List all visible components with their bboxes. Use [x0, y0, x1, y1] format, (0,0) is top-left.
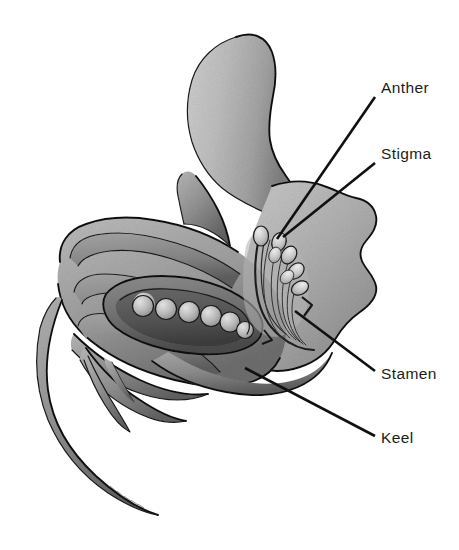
ovule	[179, 302, 200, 323]
ovule	[201, 306, 222, 327]
ovule	[133, 293, 155, 317]
botanical-figure: Anther Stigma Stamen Keel	[0, 0, 459, 550]
anther-label: Anther	[381, 79, 429, 96]
stigma-knob	[254, 226, 269, 246]
stamen-label: Stamen	[381, 365, 437, 382]
flower-diagram-svg: Anther Stigma Stamen Keel	[0, 0, 459, 550]
stigma-label: Stigma	[381, 145, 432, 162]
ovule	[237, 322, 254, 339]
ovule	[156, 299, 177, 320]
keel-label: Keel	[381, 429, 414, 446]
